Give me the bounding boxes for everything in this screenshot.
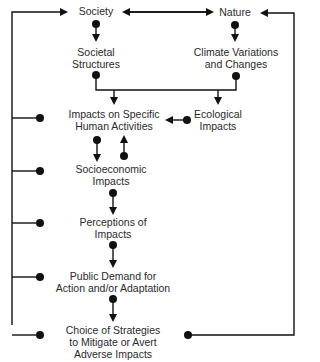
node-text-line: Structures — [72, 58, 120, 70]
node-public-demand: Public Demand for Action and/or Adaptati… — [56, 270, 170, 294]
node-nature: Nature — [219, 6, 251, 18]
node-text-line: Impacts — [194, 120, 242, 132]
node-societal-structures: Societal Structures — [72, 46, 120, 70]
node-text-line: Socioeconomic — [75, 163, 146, 175]
node-choice-of-strategies: Choice of Strategies to Mitigate or Aver… — [66, 324, 161, 360]
node-climate-variations: Climate Variations and Changes — [194, 46, 278, 70]
node-text-line: Impacts — [79, 228, 146, 240]
node-society: Society — [79, 5, 113, 17]
node-text-line: Human Activities — [68, 120, 159, 132]
node-text-line: Choice of Strategies — [66, 324, 161, 336]
node-text-line: Action and/or Adaptation — [56, 282, 170, 294]
node-text-line: and Changes — [194, 58, 278, 70]
node-text-line: Impacts — [75, 175, 146, 187]
node-impacts-human-activities: Impacts on Specific Human Activities — [68, 108, 159, 132]
node-text-line: Societal — [72, 46, 120, 58]
node-text-line: Perceptions of — [79, 216, 146, 228]
node-perceptions-of-impacts: Perceptions of Impacts — [79, 216, 146, 240]
node-text-line: to Mitigate or Avert — [66, 336, 161, 348]
node-text-line: Ecological — [194, 108, 242, 120]
node-ecological-impacts: Ecological Impacts — [194, 108, 242, 132]
node-text-line: Adverse Impacts — [66, 348, 161, 360]
node-socioeconomic-impacts: Socioeconomic Impacts — [75, 163, 146, 187]
node-text-line: Impacts on Specific — [68, 108, 159, 120]
node-text-line: Climate Variations — [194, 46, 278, 58]
node-text-line: Public Demand for — [56, 270, 170, 282]
